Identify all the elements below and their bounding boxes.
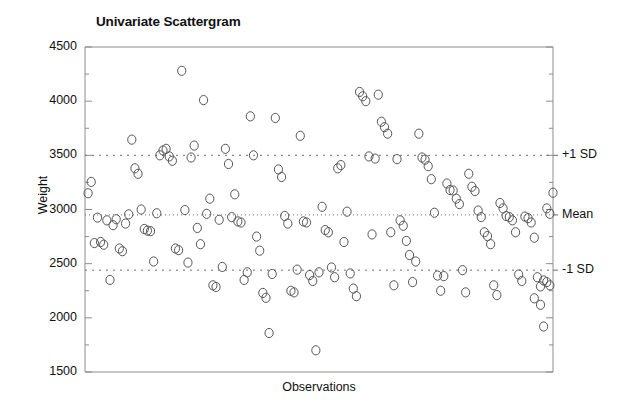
plot-canvas	[0, 0, 630, 413]
data-point	[125, 210, 133, 219]
data-point	[103, 216, 111, 225]
data-point	[293, 265, 301, 274]
data-point	[218, 262, 226, 271]
data-point	[496, 198, 504, 207]
data-point	[175, 246, 183, 255]
data-point	[296, 131, 304, 140]
data-point	[237, 218, 245, 227]
data-point	[458, 266, 466, 275]
data-point	[465, 169, 473, 178]
reference-lines	[85, 155, 558, 270]
data-point	[246, 112, 254, 121]
data-point	[399, 221, 407, 230]
scattergram-figure: Univariate Scattergram Weight Observatio…	[0, 0, 630, 413]
data-point	[187, 153, 195, 162]
data-point	[93, 213, 101, 222]
data-point	[178, 66, 186, 75]
data-point	[196, 240, 204, 249]
data-point	[368, 230, 376, 239]
data-point	[284, 219, 292, 228]
data-point	[437, 286, 445, 295]
data-point	[312, 346, 320, 355]
data-point	[106, 275, 114, 284]
data-point	[393, 155, 401, 164]
data-point	[402, 236, 410, 245]
data-point	[480, 228, 488, 237]
data-point	[374, 90, 382, 99]
data-point	[331, 273, 339, 282]
data-point	[87, 177, 95, 186]
data-point	[315, 268, 323, 277]
data-point	[231, 190, 239, 199]
data-point	[302, 218, 310, 227]
data-point	[290, 288, 298, 297]
data-point	[224, 159, 232, 168]
data-point	[190, 141, 198, 150]
data-point	[215, 215, 223, 224]
data-point	[377, 117, 385, 126]
data-point	[131, 164, 139, 173]
data-points	[84, 66, 557, 355]
data-point	[346, 269, 354, 278]
data-point	[536, 300, 544, 309]
data-point	[153, 209, 161, 218]
data-point	[221, 144, 229, 153]
data-point	[462, 288, 470, 297]
data-point	[487, 240, 495, 249]
data-point	[327, 263, 335, 272]
data-point	[193, 223, 201, 232]
data-point	[415, 129, 423, 138]
data-point	[256, 246, 264, 255]
data-point	[203, 209, 211, 218]
data-point	[184, 258, 192, 267]
data-point	[228, 212, 236, 221]
data-point	[150, 257, 158, 266]
data-point	[409, 277, 417, 286]
data-point	[137, 205, 145, 214]
data-point	[352, 292, 360, 301]
data-point	[493, 290, 501, 299]
data-point	[427, 175, 435, 184]
data-point	[490, 281, 498, 290]
data-point	[452, 194, 460, 203]
data-point	[412, 257, 420, 266]
data-point	[243, 268, 251, 277]
data-point	[324, 228, 332, 237]
data-point	[212, 282, 220, 291]
data-point	[530, 233, 538, 242]
data-point	[430, 208, 438, 217]
data-point	[511, 228, 519, 237]
data-point	[321, 225, 329, 234]
data-point	[265, 328, 273, 337]
data-point	[343, 207, 351, 216]
data-point	[199, 95, 207, 104]
data-point	[390, 281, 398, 290]
data-point	[271, 113, 279, 122]
data-point	[90, 238, 98, 247]
data-point	[318, 202, 326, 211]
data-point	[418, 153, 426, 162]
data-point	[128, 135, 136, 144]
data-point	[253, 232, 261, 241]
data-point	[134, 169, 142, 178]
data-point	[455, 199, 463, 208]
data-point	[340, 237, 348, 246]
data-point	[543, 204, 551, 213]
data-point	[440, 272, 448, 281]
data-point	[387, 228, 395, 237]
data-point	[268, 269, 276, 278]
data-point	[121, 219, 129, 228]
data-point	[206, 194, 214, 203]
data-point	[277, 172, 285, 181]
data-point	[540, 322, 548, 331]
data-point	[396, 216, 404, 225]
data-point	[181, 205, 189, 214]
